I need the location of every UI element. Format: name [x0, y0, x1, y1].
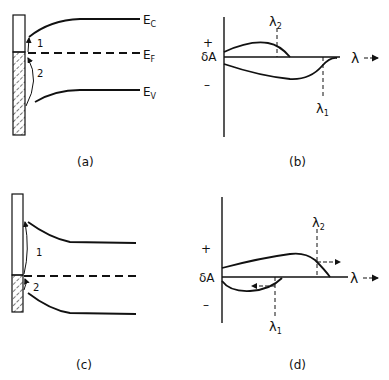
- ef-label: EF: [143, 48, 156, 64]
- metal-contact-filled: [13, 52, 25, 135]
- delta-a-label: δA: [201, 50, 217, 64]
- x-axis-lambda-label: λ: [350, 270, 358, 286]
- panel-b: λ + δA – λ2 λ1 (b): [201, 14, 378, 169]
- caption-d: (d): [289, 358, 306, 372]
- ec-label: EC: [143, 13, 157, 29]
- transition-1-label: 1: [36, 247, 42, 258]
- delta-a-label: δA: [199, 271, 215, 285]
- conduction-band-curve: [28, 222, 136, 243]
- transition-1-arrow: [28, 38, 29, 52]
- positive-curve: [224, 42, 290, 57]
- negative-curve: [224, 58, 337, 79]
- x-axis-lambda-label: λ: [351, 50, 359, 66]
- caption-b: (b): [289, 155, 306, 169]
- metal-contact-upper: [12, 194, 23, 275]
- metal-contact-upper: [13, 15, 25, 52]
- valence-band-curve: [35, 90, 140, 102]
- transition-2-label: 2: [37, 68, 43, 79]
- minus-sign: –: [203, 298, 209, 312]
- caption-c: (c): [76, 358, 92, 372]
- lambda1-label: λ1: [269, 319, 282, 336]
- lambda1-label: λ1: [316, 101, 329, 118]
- negative-curve: [222, 278, 282, 291]
- panel-d: λ + δA – λ2 λ1 (d): [199, 197, 378, 372]
- transition-2-arrow: [26, 58, 34, 106]
- ev-label: EV: [143, 85, 157, 101]
- transition-1-label: 1: [37, 38, 43, 49]
- plus-sign: +: [203, 36, 213, 50]
- plus-sign: +: [201, 242, 211, 256]
- positive-curve: [222, 254, 330, 277]
- panel-c: 1 2 (c): [12, 194, 136, 372]
- panel-a: 1 2 EC EF EV (a): [13, 13, 157, 169]
- lambda2-label: λ2: [312, 215, 325, 232]
- minus-sign: –: [204, 78, 210, 92]
- figure-canvas: 1 2 EC EF EV (a) λ + δA – λ2 λ1 (b) 1 2 …: [0, 0, 389, 380]
- valence-band-curve: [28, 293, 136, 314]
- caption-a: (a): [77, 155, 94, 169]
- conduction-band-curve: [29, 19, 140, 37]
- transition-2-label: 2: [33, 282, 39, 293]
- transition-1-arrow: [24, 222, 27, 274]
- lambda2-label: λ2: [269, 14, 282, 31]
- transition-2-arrow: [24, 279, 26, 290]
- metal-contact-filled: [12, 275, 23, 312]
